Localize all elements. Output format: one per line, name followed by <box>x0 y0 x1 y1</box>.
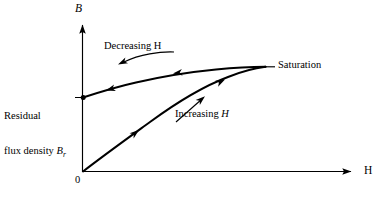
residual-label-line-1: Residual <box>4 110 66 122</box>
saturation-label: Saturation <box>278 59 321 71</box>
decreasing-h-arrowhead-1 <box>105 85 116 94</box>
increasing-h-label: Increasing H <box>175 108 229 120</box>
residual-label-text: flux density <box>4 145 57 156</box>
bh-curve-figure: B H 0 Residual flux density Br Decreasin… <box>0 0 380 197</box>
increasing-h-label-symbol: H <box>221 108 229 119</box>
residual-flux-density-label: Residual flux density Br <box>4 86 66 180</box>
x-axis-label: H <box>364 164 372 177</box>
decreasing-h-leader-arrowhead <box>117 58 128 68</box>
y-axis-label: B <box>75 2 82 15</box>
decreasing-h-curve-group <box>81 67 266 100</box>
increasing-h-label-text: Increasing <box>175 108 221 119</box>
decreasing-h-leader-line <box>124 52 174 62</box>
decreasing-h-curve <box>83 67 266 98</box>
residual-label-line-2: flux density Br <box>4 145 66 157</box>
decreasing-h-label: Decreasing H <box>104 40 161 52</box>
residual-label-subscript: r <box>63 150 66 159</box>
origin-label: 0 <box>75 174 80 186</box>
decreasing-h-leader-group <box>117 52 174 67</box>
